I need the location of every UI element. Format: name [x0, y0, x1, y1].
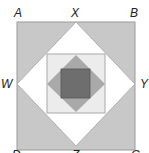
label-z: Z [72, 149, 79, 153]
label-b: B [130, 7, 138, 19]
label-w: W [1, 78, 12, 90]
label-x: X [71, 7, 79, 19]
label-c: C [131, 149, 140, 153]
label-y: Y [140, 78, 148, 90]
label-d: D [12, 149, 21, 153]
label-a: A [14, 7, 22, 19]
center-square [61, 69, 90, 98]
nested-squares-figure [0, 0, 149, 153]
